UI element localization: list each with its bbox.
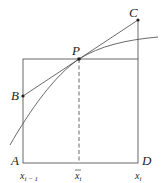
label-x-i: xi [134, 170, 141, 183]
rectangle-box [23, 59, 138, 163]
label-d: D [141, 153, 152, 168]
label-x-bar-i: xi [74, 170, 81, 183]
label-b: B [11, 88, 19, 103]
label-x-i-minus-1: xi − 1 [19, 170, 38, 183]
point-b [21, 94, 24, 97]
label-p: P [71, 43, 80, 58]
diagram-canvas: C P B A D xi − 1 xi xi [0, 0, 164, 183]
label-a: A [10, 153, 19, 168]
label-c: C [129, 5, 138, 20]
function-curve [10, 37, 158, 145]
